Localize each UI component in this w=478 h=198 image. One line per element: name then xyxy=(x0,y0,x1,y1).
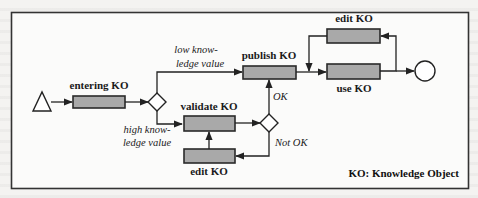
validate-ko-box xyxy=(184,116,235,131)
high-value-label-line2: ledge value xyxy=(123,137,171,148)
knowledge-object-process-diagram: entering KO low know- ledge value high k… xyxy=(0,0,478,198)
edit-ko-bottom-box xyxy=(184,149,235,163)
end-circle-icon xyxy=(415,61,435,81)
entering-ko-box xyxy=(73,96,125,108)
legend-text: KO: Knowledge Object xyxy=(348,167,459,179)
low-value-label-line1: low know- xyxy=(174,44,218,55)
validate-ko-label: validate KO xyxy=(180,100,238,112)
not-ok-label: Not OK xyxy=(274,137,308,148)
entering-ko-label: entering KO xyxy=(70,79,129,91)
publish-ko-label: publish KO xyxy=(242,49,297,61)
use-ko-box xyxy=(327,64,380,79)
low-value-label-line2: ledge value xyxy=(176,58,224,69)
use-ko-label: use KO xyxy=(336,82,372,94)
edit-ko-top-label: edit KO xyxy=(335,12,373,24)
high-value-label-line1: high know- xyxy=(124,124,171,135)
edit-ko-bottom-label: edit KO xyxy=(190,165,228,177)
ok-label: OK xyxy=(273,91,289,102)
publish-ko-box xyxy=(243,66,296,79)
edit-ko-top-box xyxy=(327,29,380,43)
